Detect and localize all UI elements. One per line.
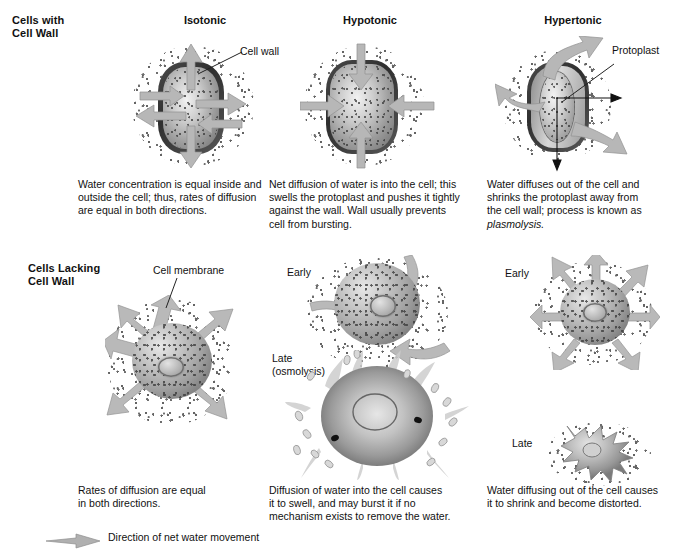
label-cell-membrane: Cell membrane <box>153 264 224 277</box>
illustration-wall-less-hypertonic-early <box>530 255 660 370</box>
nucleus <box>583 303 607 322</box>
illustration-wall-less-isotonic <box>105 295 240 430</box>
row-header-cells-with-cell-wall: Cells with Cell Wall <box>12 14 64 40</box>
caption-line: are equal in both directions. <box>78 204 290 217</box>
caption-walled-hypertonic: Water diffuses out of the cell and shrin… <box>487 178 677 231</box>
column-header-hypotonic: Hypotonic <box>310 14 430 27</box>
label-protoplast: Protoplast <box>612 44 659 57</box>
caption-walled-hypotonic: Net diffusion of water is into the cell;… <box>269 178 491 231</box>
caption-line: it to shrink and become distorted. <box>487 497 682 510</box>
caption-line: in both directions. <box>78 497 278 510</box>
column-header-isotonic: Isotonic <box>145 14 265 27</box>
water-movement-arrows-hypertonic <box>495 36 645 176</box>
illustration-wall-less-hypotonic-late <box>285 350 470 480</box>
label-cell-wall: Cell wall <box>240 45 279 58</box>
row-header-line-2: Cell Wall <box>28 275 100 288</box>
caption-line: Diffusion of water into the cell causes <box>269 484 494 497</box>
caption-wall-less-hypertonic: Water diffusing out of the cell causes i… <box>487 484 682 510</box>
row-header-line-1: Cells with <box>12 14 64 27</box>
caption-line: shrinks the protoplast away from <box>487 191 677 204</box>
caption-line: Water diffuses out of the cell and <box>487 178 677 191</box>
cell-membrane-leader-line <box>163 276 183 310</box>
legend: Direction of net water movement <box>46 531 306 551</box>
arrow-right-icon <box>46 533 102 549</box>
row-header-cells-lacking-cell-wall: Cells Lacking Cell Wall <box>28 262 100 288</box>
caption-line: Water diffusing out of the cell causes <box>487 484 682 497</box>
column-header-hypertonic: Hypertonic <box>513 14 633 27</box>
caption-line: it to swell, and may burst it if no <box>269 497 494 510</box>
caption-wall-less-isotonic: Rates of diffusion are equal in both dir… <box>78 484 278 510</box>
caption-line: Net diffusion of water is into the cell;… <box>269 178 491 191</box>
illustration-walled-hypertonic <box>495 36 645 176</box>
caption-line-italic: plasmolysis. <box>487 218 544 230</box>
caption-line: the cell wall; process is known as <box>487 204 677 217</box>
illustration-wall-less-hypertonic-late <box>545 420 655 490</box>
shriveled-cell <box>545 420 655 490</box>
caption-walled-isotonic: Water concentration is equal inside and … <box>78 178 290 218</box>
caption-line: mechanism exists to remove the water. <box>269 510 494 523</box>
caption-line: cell from bursting. <box>269 218 491 231</box>
water-movement-arrows-hypotonic <box>300 40 440 170</box>
caption-line: Rates of diffusion are equal <box>78 484 278 497</box>
burst-spray <box>285 350 470 480</box>
caption-line: swells the protoplast and pushes it tigh… <box>269 191 491 204</box>
caption-line: Water concentration is equal inside and <box>78 178 290 191</box>
legend-label: Direction of net water movement <box>108 531 259 543</box>
row-header-line-1: Cells Lacking <box>28 262 100 275</box>
nucleus <box>370 295 396 317</box>
row-header-line-2: Cell Wall <box>12 27 64 40</box>
stage-label-early-hypertonic: Early <box>505 267 529 280</box>
stage-label-late-hypertonic: Late <box>512 437 532 450</box>
protoplast-leader-line <box>560 58 624 106</box>
illustration-walled-hypotonic <box>300 40 440 170</box>
caption-line: against the wall. Wall usually prevents <box>269 204 491 217</box>
caption-wall-less-hypotonic: Diffusion of water into the cell causes … <box>269 484 494 524</box>
nucleus <box>158 357 184 377</box>
caption-line: outside the cell; thus, rates of diffusi… <box>78 191 290 204</box>
